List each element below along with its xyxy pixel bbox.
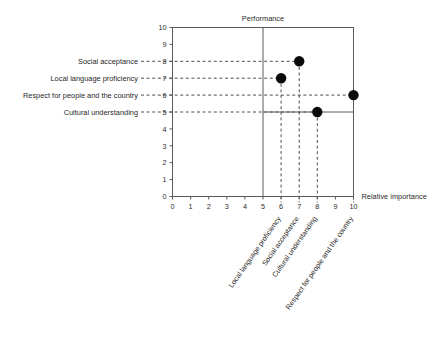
y-tick-label: 3	[163, 142, 167, 151]
chart-canvas: 012345678910 012345678910 Social accepta…	[0, 0, 441, 340]
y-tick-label: 9	[163, 40, 167, 49]
x-tick-label: 4	[243, 202, 247, 211]
y-tick-label: 7	[163, 74, 167, 83]
y-tick-label: 5	[163, 108, 167, 117]
x-tick-label: 3	[225, 202, 229, 211]
data-point	[348, 90, 358, 100]
data-point-marker	[312, 107, 322, 117]
left-category-label: Social acceptance	[78, 57, 138, 66]
x-tick-label: 2	[207, 202, 211, 211]
importance-performance-chart: 012345678910 012345678910 Social accepta…	[0, 0, 441, 340]
y-tick-label: 6	[163, 91, 167, 100]
data-point-marker	[294, 56, 304, 66]
x-tick-label: 9	[333, 202, 337, 211]
x-tick-label: 5	[261, 202, 265, 211]
data-point	[312, 107, 322, 117]
y-axis-title: Performance	[242, 14, 284, 23]
y-tick-label: 1	[163, 175, 167, 184]
x-axis-title: Relative importance	[362, 192, 427, 201]
y-tick-label: 2	[163, 158, 167, 167]
left-category-label: Cultural understanding	[64, 108, 138, 117]
y-tick-label: 8	[163, 57, 167, 66]
y-tick-label: 4	[163, 125, 167, 134]
x-tick-label: 8	[315, 202, 319, 211]
left-category-label: Respect for people and the country	[23, 91, 138, 100]
y-tick-label: 10	[159, 23, 167, 32]
x-tick-label: 10	[350, 202, 358, 211]
x-tick-label: 1	[189, 202, 193, 211]
data-point-marker	[276, 73, 286, 83]
data-point	[294, 56, 304, 66]
chart-background	[0, 0, 441, 340]
x-tick-label: 6	[279, 202, 283, 211]
x-tick-label: 0	[171, 202, 175, 211]
data-point-marker	[348, 90, 358, 100]
data-point	[276, 73, 286, 83]
left-category-label: Local language proficiency	[50, 74, 138, 83]
y-tick-label: 0	[163, 192, 167, 201]
x-tick-label: 7	[297, 202, 301, 211]
